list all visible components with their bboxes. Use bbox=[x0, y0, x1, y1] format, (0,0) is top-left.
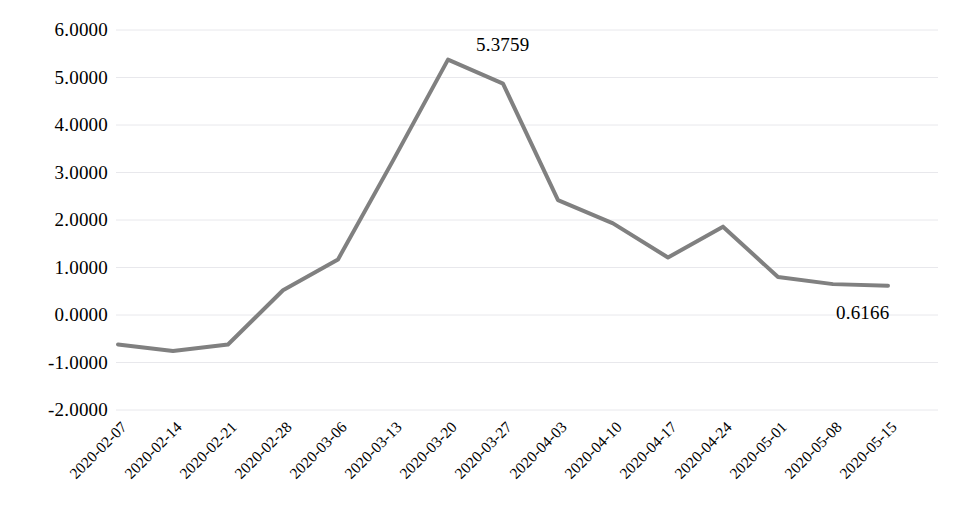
x-axis: 2020-02-072020-02-142020-02-212020-02-28… bbox=[0, 0, 953, 525]
x-tick-label: 2020-02-07 bbox=[0, 418, 131, 525]
line-chart: 6.00005.00004.00003.00002.00001.00000.00… bbox=[0, 0, 953, 525]
peak-value-label: 5.3759 bbox=[476, 34, 529, 56]
last-value-label: 0.6166 bbox=[836, 302, 889, 324]
